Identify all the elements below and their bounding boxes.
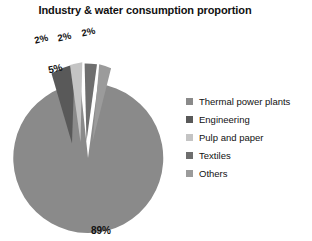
pie-data-label-others: 2%	[80, 25, 96, 39]
legend-swatch-icon	[186, 152, 193, 159]
legend-item-label: Thermal power plants	[199, 96, 290, 107]
legend-item-others[interactable]: Others	[186, 165, 312, 182]
chart-title: Industry & water consumption proportion	[0, 4, 290, 16]
legend-item-thermal-power-plants[interactable]: Thermal power plants	[186, 93, 312, 110]
legend-swatch-icon	[186, 170, 193, 177]
legend-item-textiles[interactable]: Textiles	[186, 147, 312, 164]
pie-data-label-thermal-power-plants: 89%	[91, 225, 111, 236]
legend-item-engineering[interactable]: Engineering	[186, 111, 312, 128]
pie-data-label-pulp-and-paper: 2%	[33, 31, 50, 45]
legend-item-pulp-and-paper[interactable]: Pulp and paper	[186, 129, 312, 146]
legend-item-label: Engineering	[199, 114, 250, 125]
legend-swatch-icon	[186, 116, 193, 123]
legend-swatch-icon	[186, 134, 193, 141]
legend-item-label: Others	[199, 168, 228, 179]
legend-swatch-icon	[186, 98, 193, 105]
chart-legend: Thermal power plants Engineering Pulp an…	[186, 93, 312, 183]
legend-item-label: Textiles	[199, 150, 231, 161]
pie-svg: 89% 5% 2% 2% 2%	[0, 18, 180, 241]
pie-data-label-textiles: 2%	[56, 30, 72, 44]
pie-chart-figure: Industry & water consumption proportion …	[0, 0, 312, 241]
legend-item-label: Pulp and paper	[199, 132, 263, 143]
pie-plot-area: 89% 5% 2% 2% 2%	[0, 18, 180, 241]
